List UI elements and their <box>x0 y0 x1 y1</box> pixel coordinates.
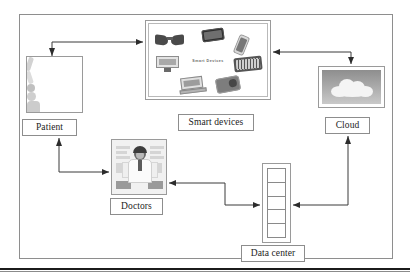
monitor-icon <box>156 56 179 72</box>
data-center-server-rack <box>262 163 291 243</box>
data-center-label: Data center <box>241 245 305 262</box>
smart-devices-inner-text: Smart Devices <box>192 59 223 63</box>
doctors-label: Doctors <box>110 198 163 215</box>
patient-label: Patient <box>22 119 77 136</box>
cloud-image-panel <box>318 66 385 108</box>
cloud-illustration <box>322 70 381 104</box>
smart-devices-label: Smart devices <box>178 114 254 131</box>
doctor-illustration <box>112 140 166 194</box>
rack-slot <box>268 197 285 211</box>
patient-image-panel <box>26 56 83 113</box>
diagram-canvas: Patient Smart Devices Smart devices Clou… <box>0 0 410 278</box>
rack-slot <box>268 224 285 237</box>
smart-glasses-icon <box>155 35 185 46</box>
server-rack-slots <box>267 168 286 238</box>
patient-illustration <box>27 57 82 112</box>
smart-devices-image-panel: Smart Devices <box>145 20 271 100</box>
doctors-image-panel <box>111 139 167 195</box>
cloud-label: Cloud <box>325 117 370 134</box>
rack-slot <box>268 169 285 183</box>
keyboard-icon <box>233 56 262 73</box>
cloud-icon <box>331 79 373 96</box>
rack-slot <box>268 210 285 224</box>
rack-slot <box>268 183 285 197</box>
bottom-horizontal-rule <box>0 268 410 272</box>
laptop-icon <box>178 75 207 95</box>
